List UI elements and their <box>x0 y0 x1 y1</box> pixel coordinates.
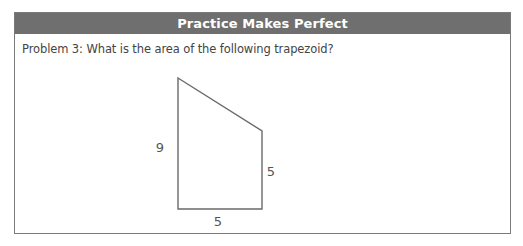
box-title: Practice Makes Perfect <box>15 13 510 34</box>
practice-box: Practice Makes Perfect Problem 3: What i… <box>14 12 511 234</box>
problem-question: Problem 3: What is the area of the follo… <box>22 42 334 56</box>
